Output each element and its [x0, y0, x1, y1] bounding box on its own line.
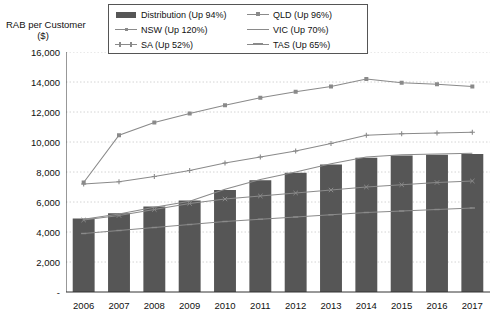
- marker-nsw-2008: [152, 174, 157, 179]
- x-axis-tick-2017: 2017: [462, 300, 483, 311]
- marker-qld-2016: [435, 82, 439, 86]
- marker-nsw-2015: [399, 131, 404, 136]
- legend-swatch-line-icon: [247, 25, 269, 35]
- marker-qld-2017: [470, 85, 474, 89]
- x-axis-tick-2006: 2006: [73, 300, 94, 311]
- legend-item-distribution[interactable]: Distribution (Up 94%): [115, 10, 247, 20]
- y-axis-tick-10000: 10,000: [4, 137, 60, 148]
- marker-qld-2012: [294, 90, 298, 94]
- marker-qld-2015: [400, 81, 404, 85]
- line-qld: [84, 79, 473, 183]
- y-axis-tick-16000: 16,000: [4, 47, 60, 58]
- legend-label: NSW (Up 120%): [141, 25, 208, 35]
- rab-per-customer-chart: RAB per Customer ($) -2,0004,0006,0008,0…: [0, 0, 500, 327]
- marker-qld-2013: [329, 85, 333, 89]
- x-axis-tick-2008: 2008: [144, 300, 165, 311]
- marker-qld-2008: [152, 121, 156, 125]
- x-axis-tick-2011: 2011: [250, 300, 270, 311]
- marker-qld-2011: [258, 96, 262, 100]
- legend-label: SA (Up 52%): [141, 40, 193, 50]
- legend-label: TAS (Up 65%): [273, 40, 330, 50]
- marker-nsw-2007: [116, 179, 121, 184]
- bar-2015: [391, 156, 413, 293]
- marker-nsw-2014: [364, 133, 369, 138]
- x-axis-tick-2007: 2007: [108, 300, 129, 311]
- marker-qld-2010: [223, 103, 227, 107]
- bar-2017: [461, 154, 483, 292]
- bar-2013: [320, 165, 342, 293]
- marker-qld-2006: [82, 181, 86, 185]
- y-axis-tick-4000: 4,000: [4, 227, 60, 238]
- x-axis-tick-2012: 2012: [285, 300, 306, 311]
- plot-area: [66, 52, 490, 292]
- marker-qld-2007: [117, 133, 121, 137]
- x-axis-tick-2014: 2014: [356, 300, 377, 311]
- x-axis-tick-2013: 2013: [320, 300, 341, 311]
- bar-2009: [179, 201, 201, 293]
- marker-nsw-2011: [258, 154, 263, 159]
- chart-canvas: [66, 52, 490, 294]
- y-axis-tick-0: -: [4, 287, 60, 298]
- bar-2014: [355, 158, 377, 292]
- legend-item-qld[interactable]: QLD (Up 96%): [247, 10, 365, 20]
- bar-2012: [285, 173, 307, 292]
- marker-qld-2014: [364, 77, 368, 81]
- bar-2010: [214, 190, 236, 292]
- x-axis-tick-2016: 2016: [426, 300, 447, 311]
- y-axis-tick-2000: 2,000: [4, 257, 60, 268]
- y-axis-tick-labels: -2,0004,0006,0008,00010,00012,00014,0001…: [2, 0, 60, 327]
- bar-2008: [143, 207, 165, 293]
- legend-item-sa[interactable]: SA (Up 52%): [115, 40, 247, 50]
- legend-label: QLD (Up 96%): [273, 10, 332, 20]
- legend-swatch-line-icon: [115, 40, 137, 50]
- y-axis-tick-12000: 12,000: [4, 107, 60, 118]
- marker-nsw-2010: [222, 160, 227, 165]
- marker-qld-2009: [188, 112, 192, 116]
- y-axis-tick-6000: 6,000: [4, 197, 60, 208]
- marker-nsw-2009: [187, 168, 192, 173]
- legend-swatch-bar-icon: [115, 10, 137, 20]
- marker-nsw-2012: [293, 148, 298, 153]
- x-axis-tick-2015: 2015: [391, 300, 412, 311]
- marker-nsw-2017: [470, 130, 475, 135]
- line-sa: [84, 181, 473, 220]
- y-axis-tick-14000: 14,000: [4, 77, 60, 88]
- legend-label: Distribution (Up 94%): [141, 10, 227, 20]
- bar-2016: [426, 155, 448, 292]
- y-axis-tick-8000: 8,000: [4, 167, 60, 178]
- line-vic: [84, 153, 473, 219]
- legend-item-vic[interactable]: VIC (Up 70%): [247, 25, 365, 35]
- legend-item-tas[interactable]: TAS (Up 65%): [247, 40, 365, 50]
- chart-legend: Distribution (Up 94%)QLD (Up 96%)NSW (Up…: [108, 4, 368, 54]
- x-axis-tick-2009: 2009: [179, 300, 200, 311]
- legend-swatch-line-icon: [247, 10, 269, 20]
- marker-nsw-2016: [434, 130, 439, 135]
- legend-swatch-line-icon: [247, 40, 269, 50]
- legend-label: VIC (Up 70%): [273, 25, 329, 35]
- legend-swatch-line-icon: [115, 25, 137, 35]
- legend-item-nsw[interactable]: NSW (Up 120%): [115, 25, 247, 35]
- bar-2006: [73, 219, 95, 293]
- bar-2007: [108, 213, 130, 292]
- x-axis-tick-2010: 2010: [214, 300, 235, 311]
